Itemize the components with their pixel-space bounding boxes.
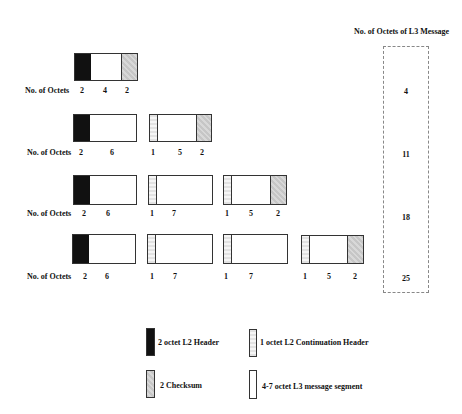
l2-header-segment: [74, 115, 90, 141]
frame-row4-4: [301, 235, 364, 264]
octet-count: 1: [150, 209, 154, 219]
l3-total-row4: 25: [383, 274, 429, 284]
octet-count: 2: [276, 209, 280, 219]
l3-message-segment: [232, 176, 270, 204]
legend-continuation-header-label: 1 octet L2 Continuation Header: [260, 338, 368, 348]
octet-count: 1: [303, 272, 307, 282]
l3-message-segment: [91, 54, 121, 80]
octet-count: 6: [106, 209, 110, 219]
l3-total-title: No. of Octets of L3 Message: [354, 27, 449, 37]
octet-count: 5: [178, 148, 182, 158]
octet-count: 4: [103, 86, 107, 96]
octet-count: 6: [110, 148, 114, 158]
l3-total-row2: 11: [383, 150, 429, 160]
octet-count: 6: [105, 272, 109, 282]
l3-message-segment: [310, 236, 347, 263]
row-label: No. of Octets: [27, 148, 71, 158]
row-label: No. of Octets: [27, 272, 71, 282]
octet-count: 7: [249, 272, 253, 282]
checksum-segment: [347, 236, 363, 263]
checksum-segment: [196, 115, 211, 141]
continuation-header-segment: [150, 115, 158, 141]
octet-count: 1: [150, 272, 154, 282]
octet-count: 5: [327, 272, 331, 282]
legend-l3-segment-swatch: [249, 370, 257, 399]
l3-total-column: [383, 46, 429, 293]
octet-count: 7: [172, 209, 176, 219]
l2-header-segment: [74, 176, 90, 204]
legend-l3-segment-label: 4-7 octet L3 message segment: [262, 382, 362, 392]
continuation-header-segment: [224, 176, 232, 204]
l3-message-segment: [90, 115, 136, 141]
continuation-header-segment: [302, 236, 310, 263]
l3-message-segment: [89, 235, 135, 263]
octet-count: 2: [353, 272, 357, 282]
octet-count: 2: [82, 209, 86, 219]
legend-l2-header-swatch: [146, 328, 155, 356]
l2-header-segment: [73, 235, 89, 263]
octet-count: 2: [80, 86, 84, 96]
checksum-segment: [270, 176, 286, 204]
frame-row4-2: [147, 234, 213, 264]
l3-total-row1: 4: [383, 87, 429, 97]
octet-count: 1: [225, 209, 229, 219]
l3-message-segment: [90, 176, 136, 204]
frame-row3-3: [223, 175, 287, 205]
octet-count: 2: [200, 148, 204, 158]
frame-row4-3: [223, 234, 288, 264]
octet-count: 1: [151, 148, 155, 158]
octet-count: 2: [83, 272, 87, 282]
octet-count: 2: [125, 86, 129, 96]
frame-row3-1: [73, 175, 137, 205]
frame-row2-2: [149, 114, 212, 142]
octet-count: 2: [79, 148, 83, 158]
checksum-segment: [121, 54, 137, 80]
frame-row3-2: [148, 175, 213, 205]
legend-l2-header-label: 2 octet L2 Header: [158, 338, 219, 348]
legend-continuation-header-swatch: [249, 329, 257, 357]
l3-total-row3: 18: [383, 213, 429, 223]
frame-row1-1: [74, 53, 138, 81]
l2-header-segment: [75, 54, 91, 80]
l3-message-segment: [232, 235, 287, 263]
continuation-header-segment: [149, 176, 157, 204]
l3-message-segment: [156, 235, 212, 263]
row-label: No. of Octets: [27, 209, 71, 219]
legend-checksum-swatch: [146, 370, 155, 398]
l3-message-segment: [158, 115, 196, 141]
frame-row4-1: [72, 234, 136, 264]
octet-count: 7: [173, 272, 177, 282]
frame-row2-1: [73, 114, 137, 142]
continuation-header-segment: [148, 235, 156, 263]
row-label: No. of Octets: [25, 86, 69, 96]
legend-checksum-label: 2 Checksum: [160, 381, 202, 391]
l3-message-segment: [157, 176, 212, 204]
octet-count: 5: [249, 209, 253, 219]
octet-count: 1: [224, 272, 228, 282]
continuation-header-segment: [224, 235, 232, 263]
